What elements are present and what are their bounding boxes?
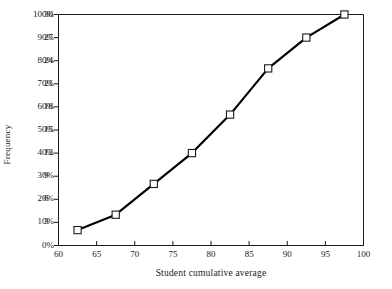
- data-point-marker: [226, 111, 233, 118]
- data-point-marker: [265, 65, 272, 72]
- cumulative-frequency-line: [78, 15, 345, 231]
- plot-area: [0, 0, 392, 289]
- data-series-group: [74, 11, 348, 234]
- data-point-marker: [341, 11, 348, 18]
- data-point-marker: [112, 211, 119, 218]
- data-point-marker: [188, 150, 195, 157]
- data-point-marker: [74, 227, 81, 234]
- cumulative-frequency-chart: Frequency Student cumulative average 0%1…: [0, 0, 392, 289]
- data-point-marker: [303, 34, 310, 41]
- axes-group: [59, 15, 364, 246]
- axis-ticks-group: [54, 15, 364, 246]
- data-point-marker: [150, 180, 157, 187]
